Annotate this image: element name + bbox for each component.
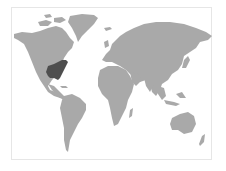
uk[interactable] xyxy=(104,40,109,48)
africa[interactable] xyxy=(98,66,134,126)
world-map xyxy=(0,0,226,171)
australia[interactable] xyxy=(170,112,196,134)
southeast-asia[interactable] xyxy=(158,86,186,106)
arctic-islands[interactable] xyxy=(38,14,66,26)
caribbean[interactable] xyxy=(60,86,68,88)
greenland[interactable] xyxy=(68,14,98,42)
south-america[interactable] xyxy=(60,94,86,152)
madagascar[interactable] xyxy=(129,108,133,118)
iceland[interactable] xyxy=(104,27,112,31)
new-zealand[interactable] xyxy=(199,134,205,146)
